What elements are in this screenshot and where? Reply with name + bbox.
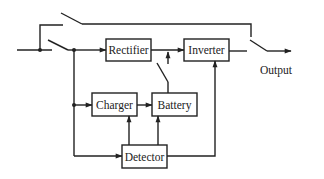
output-label: Output <box>260 64 293 77</box>
battery-label: Battery <box>158 99 192 112</box>
output-switch <box>250 40 267 51</box>
bypass-switch <box>61 13 82 24</box>
detector-block: Detector <box>122 145 167 168</box>
battery-switch <box>157 63 168 82</box>
main-switch <box>48 40 68 50</box>
ups-block-diagram: Rectifier Inverter Output Charger Batter… <box>0 0 324 179</box>
charger-block: Charger <box>92 93 137 116</box>
rectifier-block: Rectifier <box>106 39 151 61</box>
inverter-label: Inverter <box>188 44 225 56</box>
inverter-block: Inverter <box>184 39 229 61</box>
bypass-line <box>82 24 251 37</box>
detector-label: Detector <box>125 151 165 163</box>
battery-block: Battery <box>152 93 197 116</box>
rectifier-label: Rectifier <box>108 44 148 56</box>
charger-label: Charger <box>96 99 133 112</box>
